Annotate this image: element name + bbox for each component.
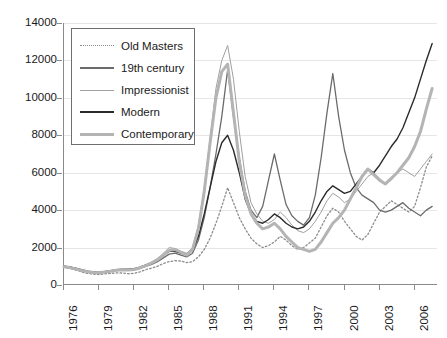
x-axis-tick bbox=[379, 285, 380, 290]
legend-item-old-masters: Old Masters bbox=[72, 35, 194, 57]
x-axis-tick bbox=[414, 285, 415, 290]
x-axis-tick bbox=[98, 285, 99, 290]
x-axis-tick-label: 1997 bbox=[313, 305, 325, 331]
x-axis-tick-label: 1994 bbox=[278, 305, 290, 331]
legend-label: 19th century bbox=[121, 62, 184, 74]
x-axis-tick-label: 1982 bbox=[138, 305, 150, 331]
legend-label: Contemporary bbox=[121, 128, 194, 140]
x-axis-tick bbox=[308, 285, 309, 290]
x-axis-tick bbox=[344, 285, 345, 290]
x-axis-tick-label: 2006 bbox=[419, 305, 431, 331]
x-axis-tick-label: 2000 bbox=[349, 305, 361, 331]
x-axis-tick-label: 1976 bbox=[68, 305, 80, 331]
x-axis-tick-label: 1979 bbox=[103, 305, 115, 331]
x-axis-tick-label: 1985 bbox=[173, 305, 185, 331]
legend-swatch-contemporary bbox=[80, 128, 114, 140]
legend-item-modern: Modern bbox=[72, 101, 194, 123]
legend-item-impressionist: Impressionist bbox=[72, 79, 194, 101]
legend-item-contemporary: Contemporary bbox=[72, 123, 194, 145]
x-axis-tick bbox=[273, 285, 274, 290]
legend-swatch-19th-century bbox=[80, 62, 114, 74]
x-axis-tick bbox=[63, 285, 64, 290]
chart-figure: 14000120001000080006000400020000 1976197… bbox=[0, 0, 447, 338]
x-axis: 1976197919821985198819911994199720002003… bbox=[0, 0, 447, 338]
legend-label: Impressionist bbox=[121, 84, 189, 96]
legend-swatch-old-masters bbox=[80, 40, 114, 52]
x-axis-tick bbox=[133, 285, 134, 290]
x-axis-tick-label: 2003 bbox=[384, 305, 396, 331]
x-axis-tick bbox=[238, 285, 239, 290]
legend-swatch-impressionist bbox=[80, 84, 114, 96]
x-axis-tick bbox=[203, 285, 204, 290]
x-axis-tick-label: 1991 bbox=[243, 305, 255, 331]
legend-label: Old Masters bbox=[121, 40, 183, 52]
chart-legend: Old Masters 19th century Impressionist M… bbox=[71, 28, 195, 145]
legend-swatch-modern bbox=[80, 106, 114, 118]
x-axis-tick-label: 1988 bbox=[208, 305, 220, 331]
x-axis-tick bbox=[168, 285, 169, 290]
legend-item-19th-century: 19th century bbox=[72, 57, 194, 79]
legend-label: Modern bbox=[121, 106, 160, 118]
